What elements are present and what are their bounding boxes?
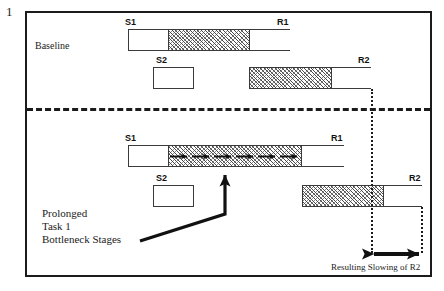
baseline-task1-start-label: S1 (125, 18, 136, 27)
prolonged-r2-reference-line (421, 207, 423, 253)
prolonged-task2-start-box (153, 185, 194, 207)
baseline-task1-bar (128, 29, 290, 51)
prolonged-task2-segment-post (384, 186, 423, 206)
baseline-task2-end-label: R2 (358, 56, 370, 65)
bottleneck-annotation: Prolonged Task 1 Bottleneck Stages (42, 207, 121, 246)
baseline-task2-segment-post (332, 68, 372, 88)
bottleneck-annotation-line-1: Prolonged (42, 207, 121, 220)
figure-root: 1 Baseline S1 R1 S2 R2 S1 R1 S2 R2 P (0, 0, 444, 291)
prolonged-task1-end-label: R1 (331, 134, 343, 143)
prolonged-task1-segment-bottleneck (168, 146, 302, 166)
panel-divider (27, 108, 430, 111)
baseline-task2-start-box (153, 67, 194, 89)
prolonged-task1-bar (128, 145, 344, 167)
panel-label-baseline: Baseline (35, 40, 69, 51)
baseline-task2-start-label: S2 (156, 56, 167, 65)
figure-number: 1 (6, 5, 13, 18)
bottleneck-annotation-line-3: Bottleneck Stages (42, 233, 121, 246)
slowing-caption: Resulting Slowing of R2 (331, 262, 420, 272)
baseline-task1-end-label: R1 (277, 18, 289, 27)
prolonged-task1-start-label: S1 (125, 134, 136, 143)
baseline-task1-segment-post (250, 30, 291, 50)
prolonged-task1-segment-pre (129, 146, 168, 166)
prolonged-task1-segment-post (302, 146, 345, 166)
prolonged-task2-bar (302, 185, 422, 207)
baseline-task2-bar (249, 67, 371, 89)
baseline-task1-segment-pre (129, 30, 168, 50)
baseline-task2-segment-bottleneck (250, 68, 332, 88)
baseline-r2-reference-line (371, 89, 373, 253)
bottleneck-annotation-line-2: Task 1 (42, 220, 121, 233)
prolonged-task2-end-label: R2 (409, 174, 421, 183)
baseline-task1-segment-bottleneck (168, 30, 250, 50)
prolonged-task2-start-label: S2 (156, 174, 167, 183)
